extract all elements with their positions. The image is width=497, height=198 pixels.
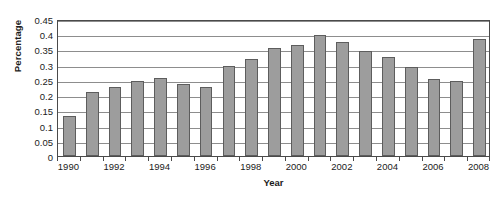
x-axis-tick-label: 1996 — [185, 161, 225, 172]
plot-area — [57, 20, 490, 157]
x-axis-tick-label: 2008 — [459, 161, 497, 172]
y-axis-tick-label: 0.1 — [20, 121, 53, 132]
x-axis-tick-label: 2006 — [413, 161, 453, 172]
x-axis-tick-label: 1994 — [140, 161, 180, 172]
y-axis-tick-labels: 0.450.40.350.30.250.20.150.10.050 — [20, 20, 53, 157]
bar-slot — [423, 21, 446, 156]
x-axis-tick-label: 2000 — [276, 161, 316, 172]
bar-slot — [309, 21, 332, 156]
bar-chart-figure: Percentage 0.450.40.350.30.250.20.150.10… — [0, 0, 497, 198]
bar-1991[interactable] — [86, 92, 99, 156]
bar-1999[interactable] — [268, 48, 281, 156]
y-axis-tick-label: 0.35 — [20, 45, 53, 56]
bar-slot — [240, 21, 263, 156]
bars-layer — [58, 21, 489, 156]
bar-2008[interactable] — [473, 39, 486, 156]
bar-1992[interactable] — [109, 87, 122, 156]
bar-slot — [172, 21, 195, 156]
bar-2005[interactable] — [405, 67, 418, 157]
bar-1995[interactable] — [177, 84, 190, 156]
x-axis-tick-label: 2002 — [322, 161, 362, 172]
bar-slot — [263, 21, 286, 156]
bar-1994[interactable] — [154, 78, 167, 156]
bar-slot — [81, 21, 104, 156]
bar-2004[interactable] — [382, 57, 395, 156]
x-axis-tick-label: 1990 — [48, 161, 88, 172]
bar-slot — [149, 21, 172, 156]
y-axis-tick-label: 0.2 — [20, 91, 53, 102]
bar-slot — [445, 21, 468, 156]
x-axis-tick-labels: 1990199219941996199820002002200420062008 — [57, 161, 490, 175]
bar-slot — [400, 21, 423, 156]
bar-slot — [331, 21, 354, 156]
y-axis-tick-label: 0.3 — [20, 60, 53, 71]
bar-2001[interactable] — [314, 35, 327, 156]
bar-2006[interactable] — [428, 79, 441, 156]
bar-2007[interactable] — [450, 81, 463, 156]
bar-slot — [195, 21, 218, 156]
bar-slot — [58, 21, 81, 156]
bar-slot — [126, 21, 149, 156]
x-axis-tick-label: 1992 — [94, 161, 134, 172]
y-axis-tick-label: 0.45 — [20, 15, 53, 26]
bar-slot — [104, 21, 127, 156]
y-axis-tick-label: 0.05 — [20, 136, 53, 147]
y-axis-tick-label: 0.15 — [20, 106, 53, 117]
bar-1996[interactable] — [200, 87, 213, 156]
bar-slot — [354, 21, 377, 156]
bar-slot — [286, 21, 309, 156]
bar-2000[interactable] — [291, 45, 304, 156]
bar-1993[interactable] — [131, 81, 144, 157]
bar-slot — [218, 21, 241, 156]
y-axis-tick-label: 0.25 — [20, 75, 53, 86]
x-axis-tick-label: 1998 — [231, 161, 271, 172]
bar-2003[interactable] — [359, 51, 372, 156]
bar-slot — [468, 21, 491, 156]
y-axis-tick-label: 0.4 — [20, 30, 53, 41]
x-axis-title: Year — [57, 177, 490, 188]
x-axis-tick-label: 2004 — [367, 161, 407, 172]
bar-1998[interactable] — [245, 59, 258, 156]
bar-2002[interactable] — [336, 42, 349, 156]
bar-slot — [377, 21, 400, 156]
bar-1990[interactable] — [63, 116, 76, 156]
bar-1997[interactable] — [223, 66, 236, 156]
